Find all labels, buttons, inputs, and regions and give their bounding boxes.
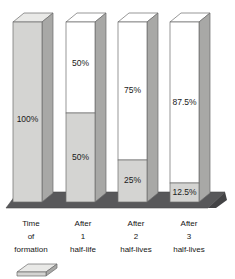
category-2-line-2: 1 — [81, 232, 86, 241]
category-1-line-3: formation — [14, 245, 47, 254]
category-3-line-3: half-lives — [120, 245, 152, 254]
category-3-line-2: 2 — [134, 232, 139, 241]
bar-group-2[interactable]: 50% 50% — [66, 13, 106, 202]
category-4-line-3: half-lives — [173, 245, 205, 254]
bar-3-filled-label: 25% — [124, 175, 141, 185]
bar-1-side — [42, 13, 53, 202]
bar-1-filled-label: 100% — [17, 114, 39, 124]
bar-group-1[interactable]: 100% — [13, 13, 53, 202]
bar-4-empty-label: 87.5% — [172, 97, 197, 107]
category-1-line-2: of — [28, 232, 35, 241]
chart-canvas: 100% 50% 50% 75% 25% 87.5% 12.5% — [0, 0, 235, 279]
bar-2-empty-label: 50% — [72, 58, 89, 68]
bar-2-side — [95, 13, 106, 202]
half-life-chart: 100% 50% 50% 75% 25% 87.5% 12.5% — [0, 0, 235, 279]
bar-4-side — [199, 13, 210, 202]
bar-1-face-filled — [13, 22, 42, 202]
bar-3-empty-label: 75% — [124, 85, 141, 95]
category-2-line-3: half-life — [70, 245, 96, 254]
category-labels: Time of formation After 1 half-life Afte… — [14, 219, 204, 254]
category-1-line-1: Time — [22, 219, 40, 228]
bar-group-3[interactable]: 75% 25% — [118, 13, 158, 202]
legend-slab-face-icon — [17, 272, 46, 276]
bar-group-4[interactable]: 87.5% 12.5% — [170, 13, 210, 202]
bar-3-side — [147, 13, 158, 202]
category-4-line-2: 3 — [187, 232, 192, 241]
category-4-line-1: After — [181, 219, 198, 228]
bar-4-filled-label: 12.5% — [172, 187, 197, 197]
category-3-line-1: After — [128, 219, 145, 228]
bar-2-filled-label: 50% — [72, 152, 89, 162]
legend — [17, 264, 57, 276]
category-2-line-1: After — [75, 219, 92, 228]
